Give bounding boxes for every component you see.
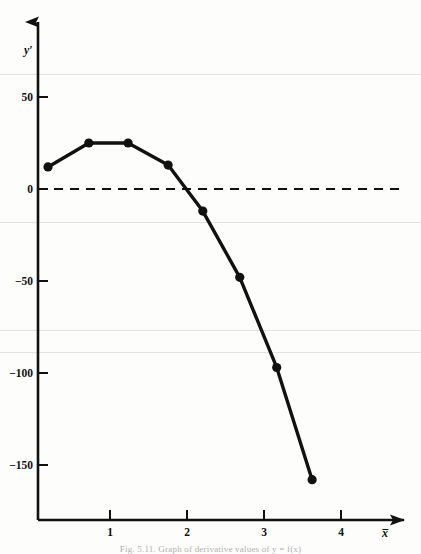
y-axis-tick-labels: 50 0 −50 −100 −150 [9,91,33,471]
y-tick-label-50: 50 [22,91,34,103]
data-point [84,138,93,147]
data-point [198,206,207,215]
y-axis-ticks [38,97,48,465]
x-tick-label-3: 3 [261,526,267,538]
x-tick-label-2: 2 [184,526,190,538]
data-point [235,273,244,282]
x-tick-label-4: 4 [338,526,344,538]
figure-caption: Fig. 5.11. Graph of derivative values of… [0,544,421,554]
data-point [308,475,317,484]
data-point [164,160,173,169]
x-axis-label: x̅ [381,526,389,540]
y-tick-label-m50: −50 [15,275,33,287]
y-tick-label-m150: −150 [9,459,33,471]
x-axis-ticks [110,510,341,520]
data-point [123,138,132,147]
y-tick-label-m100: −100 [9,367,33,379]
y-axis-label: y′ [22,43,33,57]
x-axis-tick-labels: 1 2 3 4 [107,526,344,538]
data-point [43,162,52,171]
x-tick-label-1: 1 [107,526,113,538]
data-point [272,363,281,372]
series-markers-y-prime [43,138,316,484]
y-tick-label-0: 0 [27,183,33,195]
series-line-y-prime [48,143,312,480]
